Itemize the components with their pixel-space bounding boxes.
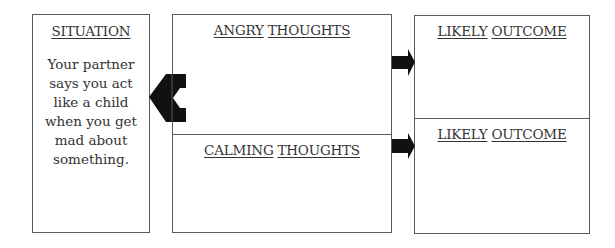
double-arrow-icon — [149, 74, 186, 122]
right-arrow-icon — [392, 49, 415, 76]
arrows-layer — [0, 0, 615, 248]
right-arrow-icon — [392, 133, 415, 159]
